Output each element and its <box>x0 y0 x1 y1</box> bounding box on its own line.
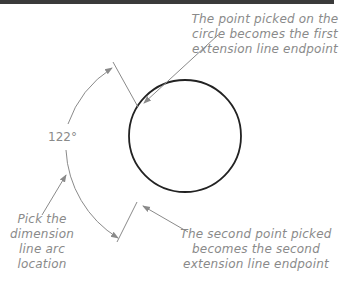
extension-line-1 <box>113 62 138 107</box>
callout-line: location <box>4 257 80 272</box>
extension-line-2 <box>117 202 137 242</box>
callout-line: becomes the second <box>176 242 336 257</box>
callout-line: extension line endpoint <box>190 42 340 57</box>
dimension-arc-upper <box>68 68 112 124</box>
circle <box>129 80 241 192</box>
leader-arc-location <box>42 175 66 215</box>
callout-line: dimension <box>4 227 80 242</box>
callout-line: Pick the <box>4 212 80 227</box>
callout-line: The second point picked <box>176 227 336 242</box>
callout-line: extension line endpoint <box>176 257 336 272</box>
callout-second-point: The second point picked becomes the seco… <box>176 227 336 272</box>
callout-first-point: The point picked on the circle becomes t… <box>190 12 340 57</box>
callout-line: circle becomes the first <box>190 27 340 42</box>
angle-label: 122° <box>48 130 77 144</box>
callout-line: line arc <box>4 242 80 257</box>
callout-line: The point picked on the <box>190 12 340 27</box>
callout-arc-location: Pick the dimension line arc location <box>4 212 80 272</box>
